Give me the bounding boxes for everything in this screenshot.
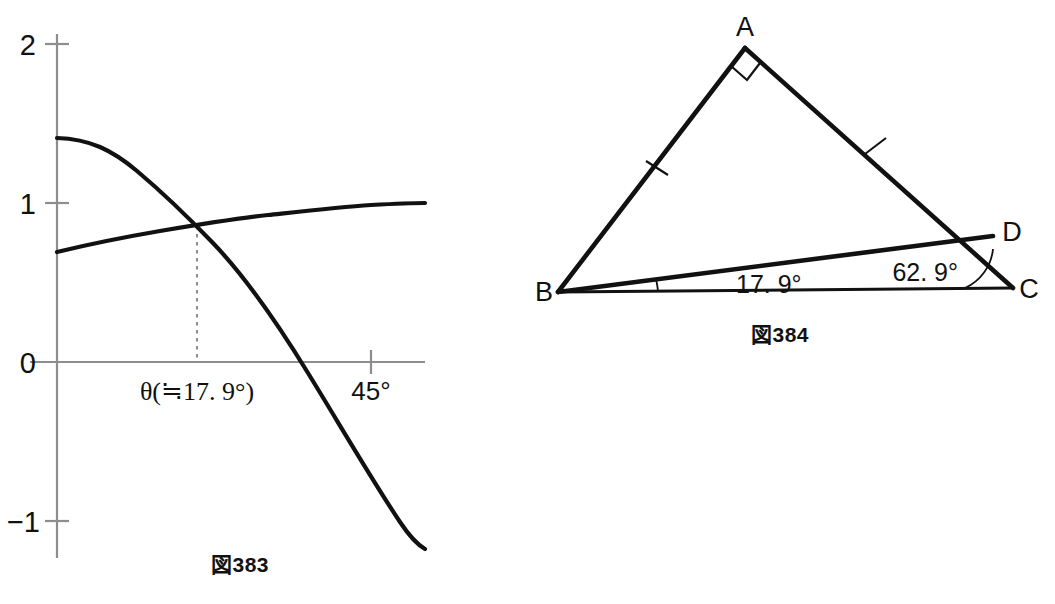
vertex-label-A: A (736, 12, 754, 42)
y-tick-label-2: 2 (20, 29, 36, 61)
vertex-label-C: C (1019, 274, 1039, 304)
vertex-label-D: D (1002, 217, 1022, 247)
angle-label-17-9: 17. 9° (736, 270, 802, 298)
cropped-header-text (160, 0, 820, 6)
equal-tick-AC (865, 138, 886, 154)
y-tick-label-minus-1: −1 (7, 506, 40, 538)
descending-curve (57, 138, 425, 549)
vertex-label-B: B (535, 277, 553, 307)
figure-383-plot: 2 1 0 −1 θ(≒17. 9°) 45° (0, 10, 520, 570)
rising-curve (57, 203, 425, 252)
figure-383-caption: 図383 (160, 548, 320, 578)
segment-AB (558, 48, 745, 292)
right-angle-mark-at-A (731, 63, 760, 80)
figure-page: 2 1 0 −1 θ(≒17. 9°) 45° 図383 A B C D 17.… (0, 0, 1055, 604)
angle-label-62-9: 62. 9° (892, 258, 958, 286)
y-tick-label-0: 0 (20, 347, 36, 379)
x-tick-label-theta: θ(≒17. 9°) (140, 377, 254, 406)
x-tick-label-45deg: 45° (351, 376, 390, 406)
y-tick-label-1: 1 (20, 188, 36, 220)
figure-384-diagram: A B C D 17. 9° 62. 9° (520, 8, 1055, 338)
figure-384-caption: 図384 (700, 318, 860, 348)
